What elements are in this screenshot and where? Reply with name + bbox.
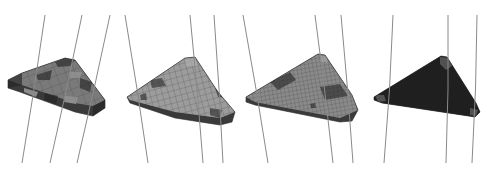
panel-4 [374, 15, 480, 163]
mesh-panels-canvas [0, 0, 498, 177]
panel-1 [8, 15, 110, 163]
curve-line [472, 15, 477, 163]
mesh-refinement-figure [0, 0, 498, 177]
panel-2 [125, 15, 235, 163]
panel-3 [243, 15, 358, 163]
